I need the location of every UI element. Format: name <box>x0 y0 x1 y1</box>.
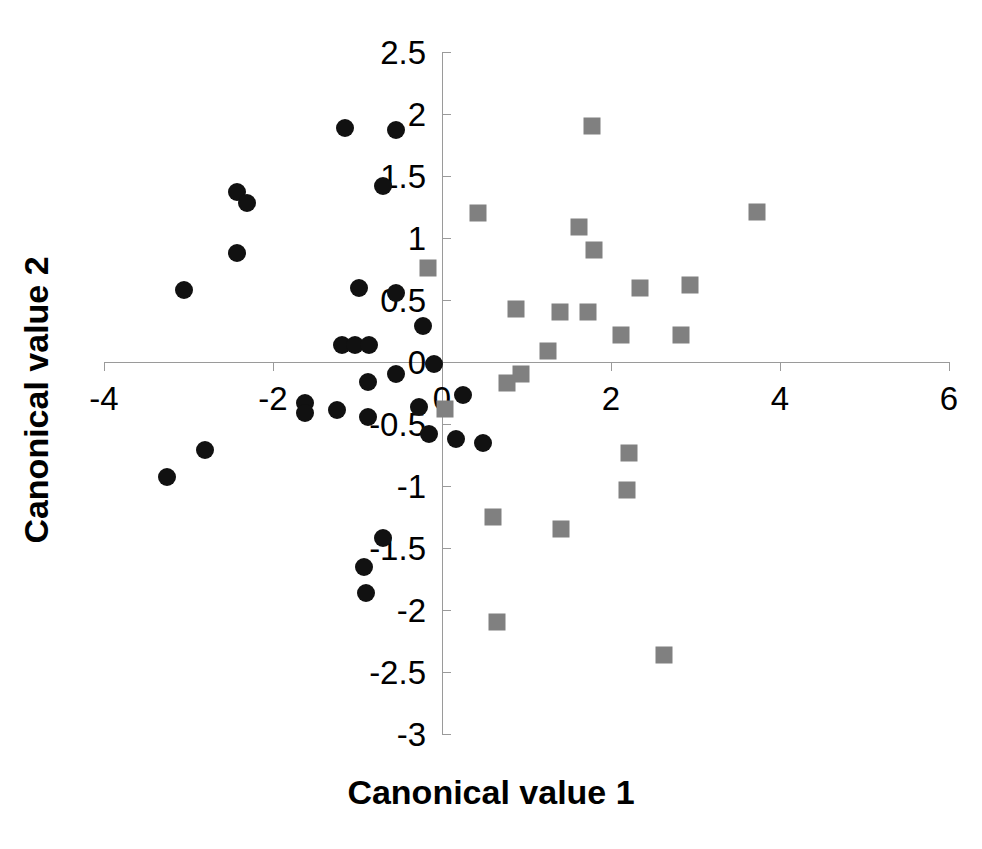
data-point-group-b <box>673 326 690 343</box>
data-point-group-b <box>419 259 436 276</box>
data-point-group-a <box>387 121 405 139</box>
data-point-group-a <box>175 281 193 299</box>
data-point-group-a <box>350 279 368 297</box>
data-point-group-a <box>196 441 214 459</box>
y-tick-label: -2.5 <box>369 656 426 689</box>
y-tick-label: 1 <box>408 222 426 255</box>
data-point-group-a <box>359 408 377 426</box>
data-point-group-a <box>328 401 346 419</box>
data-point-group-b <box>682 277 699 294</box>
y-tick <box>442 486 451 487</box>
data-point-group-a <box>359 373 377 391</box>
data-point-group-b <box>586 242 603 259</box>
x-axis-line <box>104 362 949 363</box>
x-axis-title: Canonical value 1 <box>347 775 634 809</box>
data-point-group-a <box>296 404 314 422</box>
data-point-group-b <box>539 342 556 359</box>
scatter-plot-figure: -4-20246 2.521.510.50-0.5-1-1.5-2-2.5-3 … <box>0 0 982 849</box>
y-tick <box>442 734 451 735</box>
x-tick-label: -2 <box>258 382 287 415</box>
x-tick-label: -4 <box>89 382 118 415</box>
data-point-group-a <box>238 194 256 212</box>
data-point-group-a <box>360 336 378 354</box>
data-point-group-a <box>158 468 176 486</box>
y-tick <box>442 52 451 53</box>
data-point-group-b <box>513 366 530 383</box>
y-tick <box>442 424 451 425</box>
data-point-group-b <box>470 205 487 222</box>
plot-area: -4-20246 2.521.510.50-0.5-1-1.5-2-2.5-3 <box>0 0 982 849</box>
x-tick-label: 2 <box>602 382 620 415</box>
data-point-group-b <box>613 326 630 343</box>
data-point-group-a <box>387 284 405 302</box>
data-point-group-a <box>420 425 438 443</box>
y-axis-title: Canonical value 2 <box>19 256 53 543</box>
y-tick <box>442 114 451 115</box>
y-tick <box>442 548 451 549</box>
y-tick-label: 0 <box>408 346 426 379</box>
data-point-group-b <box>553 521 570 538</box>
y-tick-label: 2 <box>408 98 426 131</box>
data-point-group-b <box>508 300 525 317</box>
data-point-group-b <box>580 304 597 321</box>
data-point-group-a <box>355 558 373 576</box>
data-point-group-b <box>749 203 766 220</box>
x-tick-label: 4 <box>771 382 789 415</box>
data-point-group-a <box>228 244 246 262</box>
data-point-group-a <box>357 584 375 602</box>
x-tick <box>104 362 105 371</box>
data-point-group-a <box>425 355 443 373</box>
data-point-group-a <box>374 177 392 195</box>
x-tick <box>949 362 950 371</box>
data-point-group-a <box>454 386 472 404</box>
data-point-group-b <box>584 118 601 135</box>
data-point-group-b <box>484 509 501 526</box>
y-tick-label: -1 <box>397 470 426 503</box>
y-tick <box>442 300 451 301</box>
data-point-group-a <box>447 430 465 448</box>
x-tick <box>611 362 612 371</box>
y-tick-label: -3 <box>397 718 426 751</box>
data-point-group-b <box>552 304 569 321</box>
data-point-group-a <box>387 365 405 383</box>
data-point-group-a <box>374 529 392 547</box>
data-point-group-b <box>631 279 648 296</box>
data-point-group-a <box>414 317 432 335</box>
data-point-group-b <box>620 444 637 461</box>
data-point-group-b <box>570 218 587 235</box>
y-tick-label: 2.5 <box>380 36 426 69</box>
x-tick <box>273 362 274 371</box>
x-tick-label: 6 <box>940 382 958 415</box>
y-tick <box>442 672 451 673</box>
y-tick-label: -2 <box>397 594 426 627</box>
x-tick <box>780 362 781 371</box>
data-point-group-a <box>336 119 354 137</box>
data-point-group-b <box>436 401 453 418</box>
data-point-group-a <box>474 434 492 452</box>
y-tick <box>442 610 451 611</box>
data-point-group-b <box>488 614 505 631</box>
data-point-group-a <box>410 398 428 416</box>
data-point-group-b <box>619 481 636 498</box>
y-tick <box>442 176 451 177</box>
y-tick <box>442 238 451 239</box>
data-point-group-b <box>656 646 673 663</box>
